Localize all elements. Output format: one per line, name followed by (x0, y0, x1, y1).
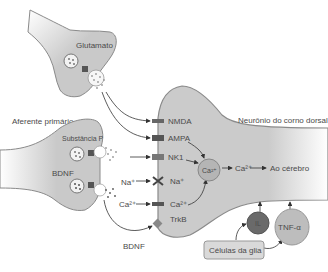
aferente-primario-label: Aferente primário (12, 117, 74, 126)
il-label: IL (255, 220, 261, 227)
glutamato-label: Glutamato (76, 41, 113, 50)
bdnf-vesicle-label: BDNF (52, 169, 74, 178)
glia-label: Células da glia (209, 246, 262, 255)
nk1-receptor (152, 154, 164, 160)
na-ion-label: Na⁺ (121, 178, 135, 187)
release-site (82, 66, 88, 72)
tnf-label: TNF-α (278, 223, 301, 232)
svg-text:AMPA: AMPA (168, 134, 191, 143)
ca-inside-label: Ca²⁺ (235, 164, 252, 173)
svg-text:NK1: NK1 (168, 153, 184, 162)
ca-channel (152, 202, 164, 206)
svg-text:Ca²⁺: Ca²⁺ (170, 200, 187, 209)
svg-text:Na⁺: Na⁺ (170, 177, 184, 186)
primary-afferent-terminal: Aferente primário Substância P BDNF (0, 117, 117, 211)
bdnf-label: BDNF (123, 242, 145, 251)
diagram-canvas: Glutamato Aferente primário Substância P… (0, 0, 328, 272)
to-brain-label: Ao cérebro (270, 164, 310, 173)
substancia-p-label: Substância P (62, 135, 104, 142)
ampa-receptor (152, 135, 164, 141)
svg-text:NMDA: NMDA (168, 117, 192, 126)
glutamate-terminal: Glutamato (28, 10, 116, 97)
svg-text:TrkB: TrkB (170, 215, 187, 224)
nmda-receptor (152, 119, 164, 123)
ca-ion-label: Ca²⁺ (119, 200, 136, 209)
vesicle (64, 54, 78, 68)
neuron-label: Neurônio do corno dorsal (238, 116, 328, 125)
ca-circle-label: Ca²⁺ (202, 167, 217, 174)
